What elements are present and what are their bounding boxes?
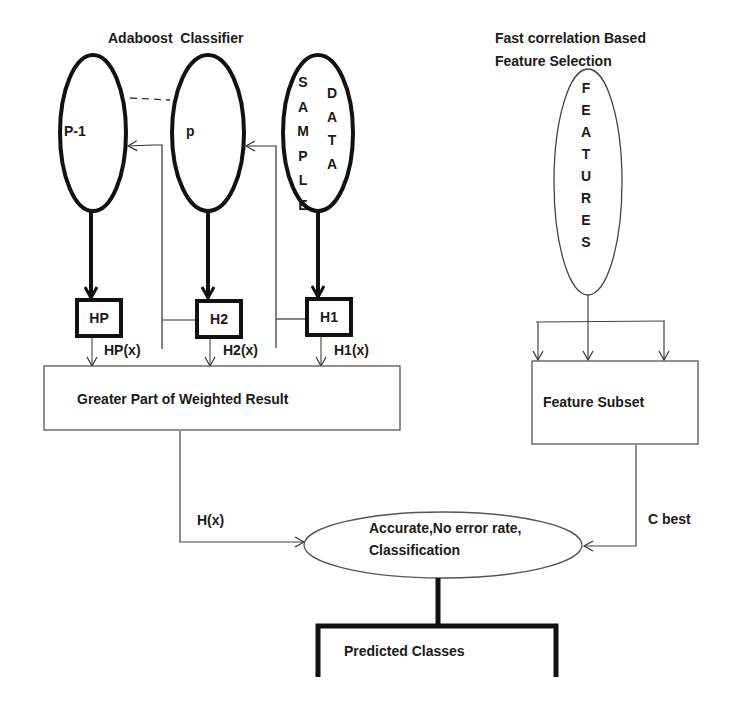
weighted-result-label: Greater Part of Weighted Result [77, 391, 289, 407]
flow-diagram: Adaboost Classifier Fast correlation Bas… [0, 0, 730, 706]
fcbf-title-line1: Fast correlation Based [495, 30, 646, 46]
sample-letter: E [298, 197, 307, 213]
hyp-box-h2-label: H2 [210, 311, 228, 327]
adaboost-title: Adaboost Classifier [108, 30, 244, 46]
sample-data-ellipse [283, 55, 353, 211]
data-letter: A [327, 156, 337, 172]
sample-letter: A [298, 99, 308, 115]
hp-output-label: HP(x) [104, 342, 141, 358]
ellipse-label-p: p [186, 123, 195, 139]
diagram-canvas: Adaboost Classifier Fast correlation Bas… [0, 0, 730, 706]
classifier-ellipse-p [172, 55, 244, 211]
features-letter: A [581, 124, 591, 140]
sample-data-text: SAMPLEDATA [297, 74, 337, 213]
sample-letter: S [298, 74, 307, 90]
sample-letter: L [299, 172, 308, 188]
dashed-connector [130, 98, 170, 100]
features-distribution-line [536, 321, 665, 322]
feedback-arrow-h1-to-p [246, 146, 276, 348]
feedback-arrow-h2-to-p-minus-1 [128, 145, 162, 349]
data-letter: T [328, 132, 337, 148]
sample-letter: M [297, 123, 309, 139]
data-letter: D [327, 85, 337, 101]
h1-output-label: H1(x) [334, 342, 369, 358]
hyp-box-hp-label: HP [89, 310, 108, 326]
sample-letter: P [298, 148, 307, 164]
features-letter: R [581, 190, 591, 206]
features-letter: F [582, 80, 591, 96]
features-letter: E [581, 102, 590, 118]
features-letter: S [581, 234, 590, 250]
hx-label: H(x) [197, 512, 224, 528]
h2-output-label: H2(x) [223, 342, 258, 358]
ellipse-label-p-minus-1: P-1 [64, 123, 86, 139]
features-letter: U [581, 168, 591, 184]
cbest-arrow [584, 445, 636, 546]
data-letter: A [327, 109, 337, 125]
predicted-classes-label: Predicted Classes [344, 643, 465, 659]
feature-subset-label: Feature Subset [543, 394, 644, 410]
hyp-box-h1-label: H1 [320, 309, 338, 325]
features-letter: E [581, 212, 590, 228]
features-text: FEATURES [581, 80, 591, 250]
cbest-label: C best [648, 511, 691, 527]
classification-line2: Classification [369, 542, 460, 558]
fcbf-title-line2: Feature Selection [495, 53, 612, 69]
classification-line1: Accurate,No error rate, [369, 520, 522, 536]
features-letter: T [582, 146, 591, 162]
